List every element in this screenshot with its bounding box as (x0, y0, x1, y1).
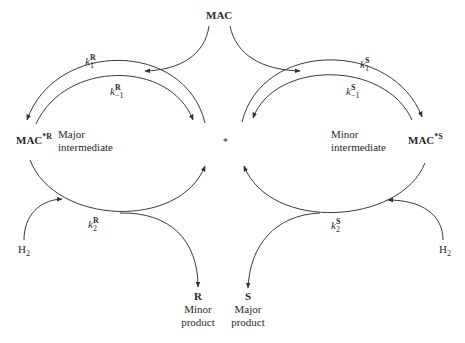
mac-r-label: MAC*R (16, 134, 52, 147)
km1S-sub: −1 (351, 92, 360, 100)
to-product-r-arrow (120, 213, 198, 287)
k1S-label: k S 1 (360, 57, 369, 73)
h2-left-sub: 2 (26, 249, 30, 258)
k1S-arrow (242, 60, 422, 122)
product-s-symbol: S (227, 290, 269, 303)
product-r-line1: Minor (178, 303, 218, 316)
h2-right-arrow (388, 200, 443, 240)
k1R-sub: 1 (90, 62, 96, 70)
k2R-sub: 2 (93, 225, 99, 233)
mac-s-desc-1: Minor (331, 128, 386, 141)
left-lower-arc (30, 160, 205, 211)
k1S-sub: 1 (365, 65, 369, 73)
center-marker: * (223, 135, 228, 148)
major-intermediate-label: Major intermediate (58, 128, 113, 154)
mac-s-label: MAC*S (408, 134, 443, 147)
h2-left-base: H (18, 243, 26, 255)
h2-right-label: H2 (439, 243, 451, 256)
product-r-symbol: R (178, 290, 218, 303)
km1S-label: k S −1 (346, 84, 359, 100)
km1R-sub: −1 (115, 92, 124, 100)
minor-intermediate-label: Minor intermediate (331, 128, 386, 154)
k2R-label: k R 2 (88, 217, 99, 233)
mac-to-right-arrow (230, 26, 300, 71)
product-s-line1: Major (227, 303, 269, 316)
product-r-line2: product (178, 316, 218, 329)
h2-right-base: H (439, 243, 447, 255)
k1R-label: k R 1 (85, 54, 96, 70)
to-product-s-arrow (248, 213, 320, 288)
mac-to-left-arrow (145, 26, 209, 71)
mac-r-sup: *R (42, 132, 52, 141)
h2-left-arrow (24, 199, 62, 240)
product-s: S Major product (227, 290, 269, 329)
km1S-arrow (253, 75, 412, 120)
mac-s-sup: *S (434, 132, 442, 141)
mac-r-desc-2: intermediate (58, 141, 113, 154)
product-s-line2: product (227, 316, 269, 329)
product-r: R Minor product (178, 290, 218, 329)
km1R-label: k R −1 (110, 84, 123, 100)
mac-label: MAC (206, 9, 232, 22)
k2S-sub: 2 (336, 226, 340, 234)
k2S-label: k S 2 (331, 218, 340, 234)
h2-left-label: H2 (18, 243, 30, 256)
mac-s-desc-2: intermediate (331, 141, 386, 154)
h2-right-sub: 2 (447, 249, 451, 258)
mac-s-base: MAC (408, 134, 434, 146)
mac-r-desc-1: Major (58, 128, 113, 141)
mac-r-base: MAC (16, 134, 42, 146)
right-lower-arc (244, 163, 425, 213)
